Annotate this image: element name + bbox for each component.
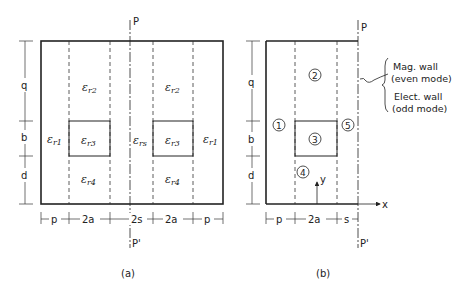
dim-2a-b: 2a	[308, 214, 321, 225]
horizontal-dimensions-b: p 2a s	[266, 212, 358, 225]
eps-r1-right: εr1	[203, 133, 218, 147]
outer-box-a	[41, 41, 223, 204]
dim-q-b: q	[248, 77, 254, 88]
region-1: 1	[276, 121, 282, 131]
dim-p-b: p	[276, 214, 282, 225]
dim-b-b: b	[248, 134, 254, 145]
eps-r3-left: εr3	[81, 134, 96, 148]
eps-r4-right: εr4	[165, 173, 180, 187]
even-mode-label: (even mode)	[391, 73, 452, 84]
dim-2s-a: 2s	[131, 214, 143, 225]
y-axis-label: y	[320, 174, 326, 185]
dim-2a-left-a: 2a	[82, 214, 95, 225]
region-3: 3	[312, 135, 318, 145]
x-axis-label: x	[382, 199, 388, 210]
figure-b: P P' 2 1 3 5 4 y x q	[245, 20, 452, 279]
dim-q-a: q	[21, 80, 27, 91]
dim-s-b: s	[344, 214, 349, 225]
label-p-top-b: P	[361, 22, 367, 33]
region-labels-b: 2 1 3 5 4	[273, 69, 354, 178]
figure-a: P P' εr2 εr2 εr1 εr3 εrs εr3 εr1 εr4 εr4…	[18, 16, 223, 279]
region-4: 4	[300, 168, 306, 178]
horizontal-dimensions-a: p 2a 2s 2a p	[41, 212, 223, 225]
eps-r3-right: εr3	[165, 134, 180, 148]
dim-2a-right-a: 2a	[165, 214, 178, 225]
diagram-canvas: P P' εr2 εr2 εr1 εr3 εrs εr3 εr1 εr4 εr4…	[0, 0, 469, 289]
dim-p-right-a: p	[204, 214, 210, 225]
dim-b-a: b	[21, 132, 27, 143]
dim-d-b: d	[248, 170, 254, 181]
region-5: 5	[345, 121, 351, 131]
wall-annotation: Mag. wall (even mode) Elect. wall (odd m…	[360, 58, 452, 114]
label-p-top-a: P	[133, 16, 139, 27]
dim-d-a: d	[21, 170, 27, 181]
caption-b: (b)	[316, 268, 330, 279]
elect-wall-label: Elect. wall	[394, 91, 442, 102]
label-p-bottom-b: P'	[360, 238, 369, 249]
eps-r2-right: εr2	[165, 81, 180, 95]
odd-mode-label: (odd mode)	[392, 103, 447, 114]
vertical-dimensions-a: q b d	[18, 41, 33, 204]
eps-r1-left: εr1	[47, 133, 62, 147]
mag-wall-label: Mag. wall	[393, 61, 438, 72]
eps-r2-left: εr2	[82, 81, 97, 95]
eps-r4-left: εr4	[81, 173, 96, 187]
region-2: 2	[312, 71, 318, 81]
vertical-dimensions-b: q b d	[245, 41, 260, 204]
label-p-bottom-a: P'	[132, 238, 141, 249]
dim-p-left-a: p	[51, 214, 57, 225]
eps-rs: εrs	[133, 134, 147, 148]
caption-a: (a)	[121, 268, 135, 279]
